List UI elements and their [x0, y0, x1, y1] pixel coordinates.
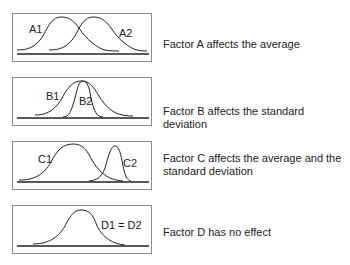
curve-label-c1: C1 — [38, 153, 52, 165]
panel-factor-d: D1 = D2 — [12, 205, 152, 254]
description-factor-c-line1: Factor C affects the average and the — [163, 152, 341, 165]
curve-label-a1: A1 — [29, 23, 42, 35]
description-factor-b: Factor B affects the standard deviation — [163, 105, 350, 131]
description-factor-d: Factor D has no effect — [163, 226, 271, 239]
panel-factor-a: A1 A2 — [12, 13, 152, 62]
curve-label-a2: A2 — [119, 27, 132, 39]
description-factor-c-line2: standard deviation — [163, 165, 341, 178]
panel-factor-b: B1 B2 — [12, 77, 152, 126]
description-factor-c: Factor C affects the average and the sta… — [163, 152, 341, 178]
curve-label-c2: C2 — [123, 157, 137, 169]
description-factor-a: Factor A affects the average — [163, 38, 300, 51]
curve-label-b1: B1 — [46, 90, 59, 102]
panel-factor-c: C1 C2 — [12, 141, 152, 190]
curve-label-b2: B2 — [79, 95, 92, 107]
curve-label-d1-d2: D1 = D2 — [101, 219, 142, 231]
